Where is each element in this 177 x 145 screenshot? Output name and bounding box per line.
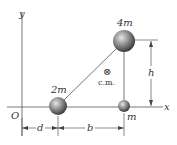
mass-2m-label: 2m (50, 84, 67, 95)
mass-m-label: m (127, 111, 136, 122)
center-of-mass-label: c.m. (98, 78, 115, 87)
d-arrow-right-icon (52, 126, 58, 130)
diagram-canvas: y x O 2m m 4m ⊗ c.m. h (0, 0, 177, 145)
h-dimension-label: h (148, 67, 154, 78)
b-arrow-left-icon (58, 126, 64, 130)
y-axis-label: y (18, 8, 25, 19)
h-arrow-down-icon (149, 100, 153, 106)
mass-2m-ball (49, 97, 67, 115)
d-dimension-label: d (37, 122, 43, 133)
mass-4m-ball (113, 30, 135, 52)
h-arrow-up-icon (149, 41, 153, 47)
mass-4m-label: 4m (116, 17, 133, 28)
b-arrow-right-icon (118, 126, 124, 130)
center-of-mass-icon: ⊗ (103, 66, 111, 77)
d-arrow-left-icon (22, 126, 28, 130)
b-dimension-label: b (87, 122, 93, 133)
origin-label: O (11, 110, 19, 121)
x-axis-label: x (164, 101, 170, 112)
